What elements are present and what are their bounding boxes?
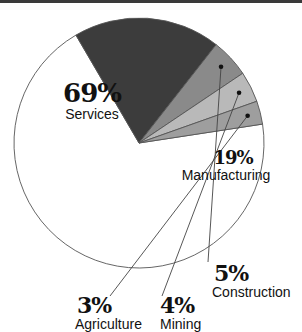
construction-name: Construction [212, 285, 302, 299]
agriculture-name: Agriculture [75, 317, 155, 331]
services-percent: 69% [52, 80, 132, 106]
marker-dot-mining [237, 90, 242, 95]
marker-dot-construction [219, 64, 224, 69]
label-construction: 5% Construction [212, 262, 302, 299]
services-name: Services [52, 107, 132, 121]
manufacturing-name: Manufacturing [164, 168, 288, 182]
construction-percent: 5% [214, 262, 302, 284]
marker-dot-agriculture [245, 113, 250, 118]
agriculture-percent: 3% [77, 294, 155, 316]
label-manufacturing: 19% Manufacturing [178, 149, 288, 182]
label-agriculture: 3% Agriculture [75, 294, 155, 331]
label-mining: 4% Mining [160, 294, 220, 331]
mining-name: Mining [160, 317, 220, 331]
label-services: 69% Services [52, 80, 132, 121]
mining-percent: 4% [160, 294, 220, 316]
manufacturing-percent: 19% [178, 149, 288, 167]
